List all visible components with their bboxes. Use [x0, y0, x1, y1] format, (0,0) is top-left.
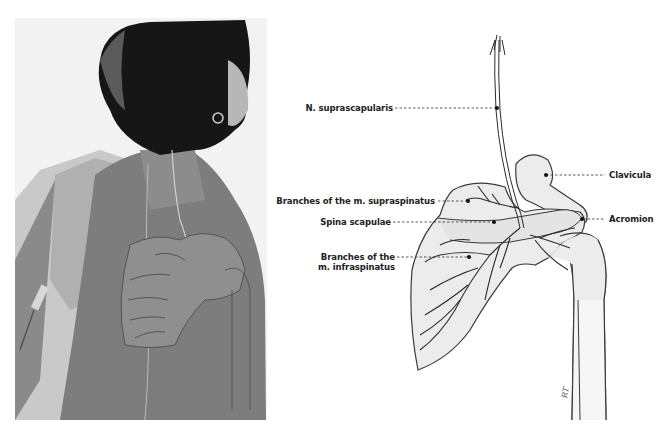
label-clavicula: Clavicula: [609, 170, 651, 180]
label-branches-infraspinatus-line1: Branches of the: [318, 252, 395, 262]
label-branches-infraspinatus-line2: m. infraspinatus: [318, 262, 395, 272]
label-branches-infraspinatus: Branches of the m. infraspinatus: [318, 252, 395, 272]
label-acromion: Acromion: [609, 214, 654, 224]
label-n-suprascapularis: N. suprascapularis: [306, 103, 393, 113]
label-spina-scapulae: Spina scapulae: [320, 217, 391, 227]
label-branches-supraspinatus: Branches of the m. supraspinatus: [276, 196, 435, 206]
artist-signature: RT: [560, 386, 571, 399]
